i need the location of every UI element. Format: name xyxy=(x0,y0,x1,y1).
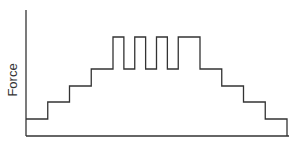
y-axis-label: Force xyxy=(2,60,22,100)
force-step-chart xyxy=(0,0,296,145)
y-axis-label-text: Force xyxy=(5,63,20,96)
force-step-line xyxy=(26,37,287,136)
